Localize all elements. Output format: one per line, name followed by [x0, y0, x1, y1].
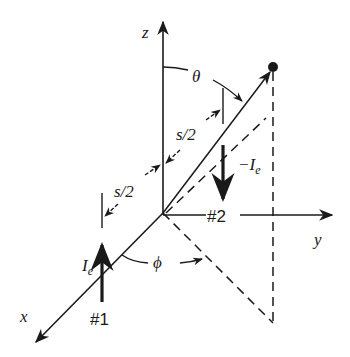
- s2-upper-arrow-out: [206, 110, 220, 120]
- dipole-geometry-diagram: θ ϕ s/2 s/2 −Ie #2 Ie #1 z y x: [0, 0, 350, 357]
- s2-upper-label: s/2: [176, 125, 196, 144]
- x-axis-label: x: [19, 307, 28, 326]
- s2-lower-arrow-in: [105, 204, 118, 216]
- dipole-2-id: #2: [207, 207, 226, 226]
- theta-label: θ: [192, 67, 200, 86]
- z-axis-label: z: [141, 23, 149, 42]
- phi-arc: [122, 255, 148, 263]
- phi-label: ϕ: [153, 253, 162, 272]
- dipole-1-id: #1: [90, 310, 109, 329]
- dipole-1-current-label: Ie: [81, 256, 94, 278]
- phi-arrow: [180, 259, 202, 263]
- theta-arc: [163, 67, 188, 70]
- dipole-2-current-label: −Ie: [238, 155, 261, 177]
- s2-lower-label: s/2: [114, 182, 134, 201]
- observation-point: [268, 62, 278, 72]
- s2-lower-arrow-out: [145, 165, 160, 175]
- s2-upper-arrow-in: [166, 150, 180, 163]
- projection-ground-dashed: [163, 213, 273, 323]
- y-axis-label: y: [312, 230, 322, 249]
- theta-arrow: [213, 80, 242, 101]
